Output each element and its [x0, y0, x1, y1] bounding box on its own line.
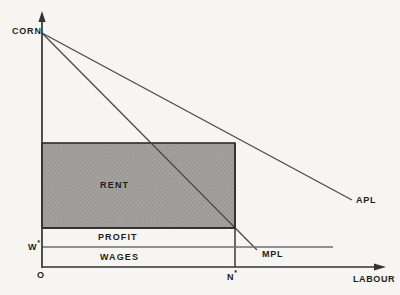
wage-level-sup: *: [37, 239, 40, 246]
wages-area-label: WAGES: [100, 253, 139, 262]
economics-rent-diagram: CORN APL MPL RENT PROFIT WAGES W* O N* L…: [0, 0, 400, 295]
rent-area-label: RENT: [100, 181, 129, 190]
x-axis-label: LABOUR: [353, 275, 395, 284]
x-axis-arrow-icon: [374, 263, 386, 270]
y-axis-label: CORN: [12, 27, 42, 36]
mpl-curve-label: MPL: [262, 250, 283, 259]
diagram-canvas: [0, 0, 400, 295]
employment-level-sup: *: [234, 269, 237, 276]
y-axis-arrow-icon: [38, 11, 45, 22]
wage-level-base: W: [28, 242, 37, 252]
employment-level-label: N*: [227, 270, 237, 282]
origin-label: O: [37, 271, 45, 280]
profit-area-label: PROFIT: [98, 233, 138, 242]
wage-level-label: W*: [28, 240, 40, 252]
apl-curve-label: APL: [356, 196, 376, 205]
rent-area-rect: [42, 143, 235, 228]
